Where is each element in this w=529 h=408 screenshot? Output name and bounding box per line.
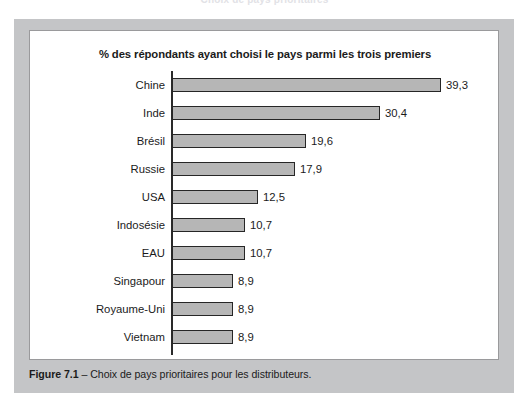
bar-value-label: 39,3 xyxy=(446,71,468,99)
bar-row: Royaume-Uni8,9 xyxy=(30,295,499,323)
bar-row: Inde30,4 xyxy=(30,99,499,127)
bar-value-label: 19,6 xyxy=(311,127,333,155)
bar xyxy=(172,302,233,316)
bar xyxy=(172,246,245,260)
figure-panel: % des répondants ayant choisi le pays pa… xyxy=(14,19,514,393)
bar-value-label: 17,9 xyxy=(300,155,322,183)
bar-category-label: USA xyxy=(30,183,165,211)
bar-row: EAU10,7 xyxy=(30,239,499,267)
bar-category-label: Brésil xyxy=(30,127,165,155)
bar-value-label: 8,9 xyxy=(238,323,254,351)
bar-row: Russie17,9 xyxy=(30,155,499,183)
bar xyxy=(172,134,306,148)
bar-value-label: 30,4 xyxy=(385,99,407,127)
bar-category-label: Inde xyxy=(30,99,165,127)
bar-category-label: Chine xyxy=(30,71,165,99)
bar-chart-plot-area: Chine39,3Inde30,4Brésil19,6Russie17,9USA… xyxy=(30,71,499,359)
bar-category-label: Royaume-Uni xyxy=(30,295,165,323)
bar-row: Chine39,3 xyxy=(30,71,499,99)
bar xyxy=(172,330,233,344)
bar xyxy=(172,218,245,232)
bar-category-label: Vietnam xyxy=(30,323,165,351)
bar-value-label: 10,7 xyxy=(250,239,272,267)
bar xyxy=(172,162,295,176)
chart-title: % des répondants ayant choisi le pays pa… xyxy=(30,48,499,60)
running-head: Choix de pays prioritaires xyxy=(0,0,529,6)
bar-row: Indosésie10,7 xyxy=(30,211,499,239)
bar xyxy=(172,274,233,288)
bar-category-label: Russie xyxy=(30,155,165,183)
chart-card: % des répondants ayant choisi le pays pa… xyxy=(29,30,499,360)
bar-row: USA12,5 xyxy=(30,183,499,211)
bar-category-label: EAU xyxy=(30,239,165,267)
bar-row: Vietnam8,9 xyxy=(30,323,499,351)
bar xyxy=(172,78,441,92)
bar-value-label: 8,9 xyxy=(238,295,254,323)
bar-value-label: 8,9 xyxy=(238,267,254,295)
bar-category-label: Indosésie xyxy=(30,211,165,239)
figure-caption-text: – Choix de pays prioritaires pour les di… xyxy=(81,368,311,380)
figure-caption-label: Figure 7.1 xyxy=(29,368,79,380)
bar xyxy=(172,106,380,120)
bar xyxy=(172,190,258,204)
bar-category-label: Singapour xyxy=(30,267,165,295)
bar-row: Singapour8,9 xyxy=(30,267,499,295)
figure-caption: Figure 7.1 – Choix de pays prioritaires … xyxy=(29,368,499,380)
bar-value-label: 10,7 xyxy=(250,211,272,239)
bar-row: Brésil19,6 xyxy=(30,127,499,155)
bar-value-label: 12,5 xyxy=(263,183,285,211)
